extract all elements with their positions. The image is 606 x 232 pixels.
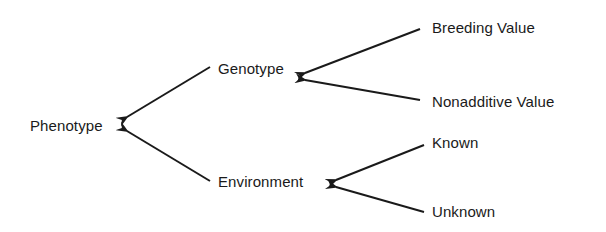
arrow-breeding-value-to-genotype	[305, 29, 420, 73]
arrow-genotype-to-phenotype	[127, 67, 210, 117]
node-phenotype: Phenotype	[30, 117, 103, 135]
node-environment: Environment	[218, 173, 303, 191]
arrow-environment-to-phenotype	[127, 131, 210, 181]
arrow-known-to-environment	[336, 145, 424, 180]
node-known: Known	[432, 134, 478, 152]
node-genotype: Genotype	[218, 60, 284, 78]
arrow-nonadditive-value-to-genotype	[305, 80, 420, 100]
node-unknown: Unknown	[432, 203, 495, 221]
arrow-unknown-to-environment	[336, 187, 424, 212]
node-breeding-value: Breeding Value	[432, 19, 535, 37]
node-nonadditive-value: Nonadditive Value	[432, 93, 554, 111]
